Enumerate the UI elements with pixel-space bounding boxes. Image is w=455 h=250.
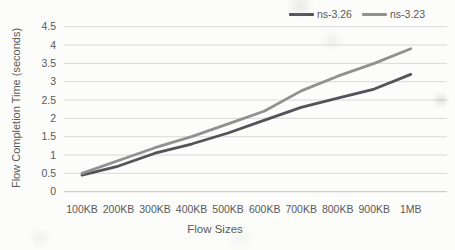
y-tick-label: 2 bbox=[24, 112, 56, 125]
y-tick-label: 3 bbox=[24, 75, 56, 88]
y-tick-label: 1.5 bbox=[24, 130, 56, 143]
y-tick-label: 2.5 bbox=[24, 94, 56, 107]
flow-completion-time-chart: ns-3.26 ns-3.23 Flow Completion Time (se… bbox=[0, 0, 455, 250]
y-tick-label: 4.5 bbox=[24, 20, 56, 33]
y-tick-label: 1 bbox=[24, 149, 56, 162]
x-axis-title: Flow Sizes bbox=[187, 223, 243, 235]
y-tick-label: 0 bbox=[24, 185, 56, 198]
x-axis-tick-labels: 100KB200KB300KB400KB500KB600KB700KB800KB… bbox=[0, 203, 455, 217]
y-tick-label: 3.5 bbox=[24, 57, 56, 70]
y-tick-label: 4 bbox=[24, 39, 56, 52]
series-line-ns-3.26 bbox=[82, 74, 411, 175]
x-tick-label: 1MB bbox=[386, 203, 436, 216]
y-tick-label: 0.5 bbox=[24, 167, 56, 180]
